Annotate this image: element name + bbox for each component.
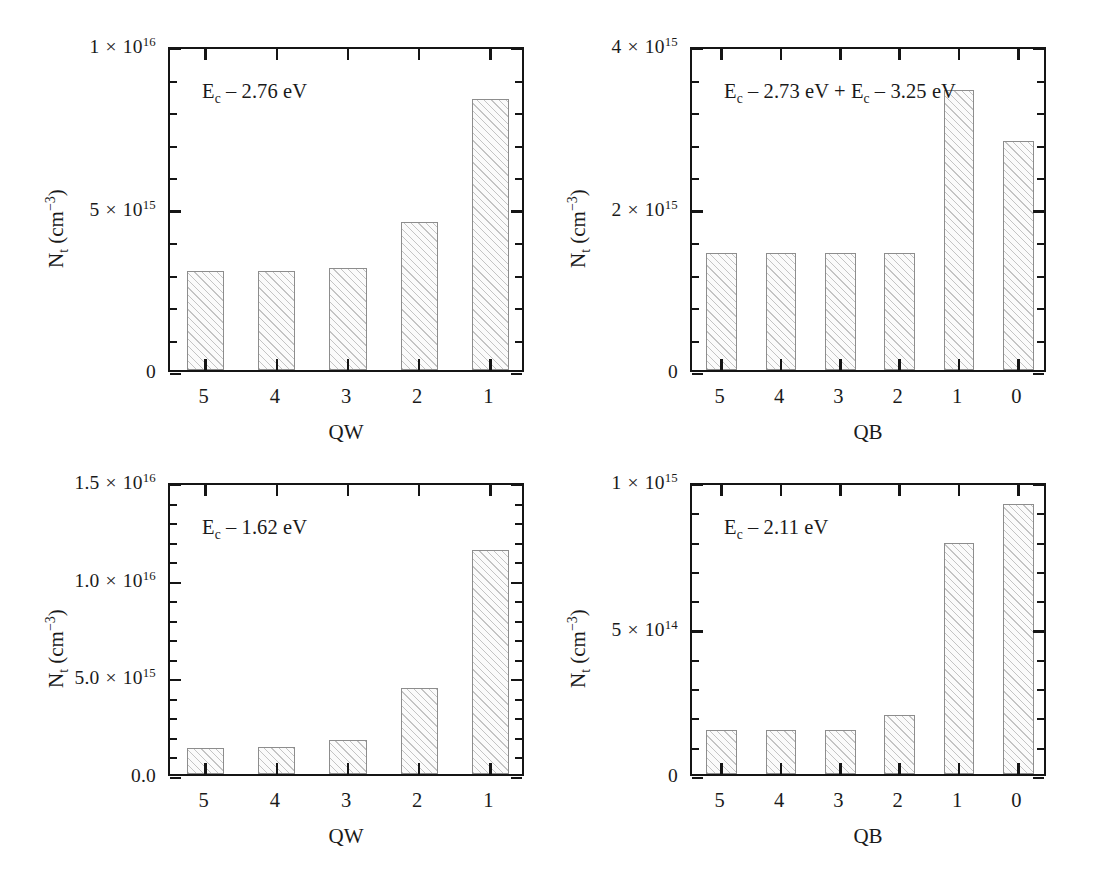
y-tick-major	[170, 679, 181, 681]
plot-annotation: Ec – 2.76 eV	[202, 80, 307, 103]
y-tick-minor-right	[1037, 572, 1044, 574]
x-tick-label: 5	[690, 790, 750, 811]
x-tick-label: 0	[986, 790, 1046, 811]
y-tick-minor	[692, 243, 699, 245]
y-tick-minor	[692, 572, 699, 574]
y-tick-minor	[692, 113, 699, 115]
bar[interactable]	[472, 550, 509, 774]
x-tick-major-top	[204, 49, 206, 60]
bar[interactable]	[766, 730, 797, 774]
y-tick-major-right	[511, 484, 522, 486]
y-tick-minor-right	[515, 113, 522, 115]
bar[interactable]	[706, 253, 737, 370]
y-tick-minor	[692, 308, 699, 310]
bar[interactable]	[944, 90, 975, 370]
x-tick-major-top	[898, 49, 900, 60]
plot-area-bottom-right	[690, 483, 1046, 776]
y-tick-label: 5 × 1014	[612, 620, 678, 640]
y-axis-title: Nt (cm−3)	[44, 189, 69, 268]
x-tick-major-top	[839, 485, 841, 496]
bar[interactable]	[706, 730, 737, 774]
y-tick-minor	[170, 699, 177, 701]
y-tick-major	[170, 777, 181, 779]
bar[interactable]	[187, 748, 224, 774]
y-tick-minor-right	[515, 562, 522, 564]
y-tick-minor	[170, 341, 177, 343]
bars-layer-top-right	[692, 49, 1044, 370]
y-tick-major	[692, 373, 703, 375]
y-tick-minor	[692, 660, 699, 662]
x-tick-major-top	[276, 485, 278, 496]
bar[interactable]	[944, 543, 975, 774]
y-tick-minor	[170, 308, 177, 310]
bar[interactable]	[472, 99, 509, 370]
y-tick-minor-right	[1037, 243, 1044, 245]
y-tick-minor-right	[515, 738, 522, 740]
x-tick-major-top	[347, 485, 349, 496]
bar[interactable]	[825, 730, 856, 774]
y-tick-minor	[692, 689, 699, 691]
y-tick-major-right	[1033, 777, 1044, 779]
y-axis-title: Nt (cm−3)	[566, 189, 591, 268]
y-tick-major	[692, 48, 703, 50]
y-tick-minor	[170, 276, 177, 278]
y-tick-minor-right	[515, 504, 522, 506]
y-tick-minor-right	[515, 341, 522, 343]
y-tick-minor	[170, 562, 177, 564]
y-tick-minor	[692, 543, 699, 545]
x-tick-major-top	[1017, 49, 1019, 60]
y-tick-minor	[170, 738, 177, 740]
x-axis-title: QB	[690, 824, 1046, 849]
y-tick-label: 1 × 1015	[612, 473, 678, 493]
bar[interactable]	[884, 715, 915, 774]
y-tick-minor	[170, 146, 177, 148]
y-tick-minor	[170, 601, 177, 603]
x-tick-major-top	[780, 485, 782, 496]
y-tick-label: 2 × 1015	[612, 200, 678, 220]
y-tick-major	[170, 484, 181, 486]
plot-annotation: Ec – 1.62 eV	[202, 516, 307, 539]
y-tick-minor	[170, 543, 177, 545]
bar[interactable]	[401, 688, 438, 774]
bar[interactable]	[258, 271, 295, 370]
y-tick-label: 1.0 × 1016	[74, 571, 156, 591]
bar[interactable]	[258, 747, 295, 774]
x-tick-label: 1	[458, 386, 518, 407]
x-tick-label: 5	[174, 386, 234, 407]
y-axis-title: Nt (cm−3)	[566, 609, 591, 688]
x-tick-label: 4	[245, 790, 305, 811]
y-tick-label: 0	[146, 362, 156, 382]
y-tick-minor	[170, 660, 177, 662]
y-tick-label: 0	[668, 766, 678, 786]
bar[interactable]	[329, 740, 366, 774]
bar[interactable]	[329, 268, 366, 370]
y-tick-minor	[170, 504, 177, 506]
bar[interactable]	[187, 271, 224, 370]
x-tick-label: 5	[690, 386, 750, 407]
y-tick-minor-right	[1037, 748, 1044, 750]
y-tick-minor	[170, 523, 177, 525]
y-tick-minor-right	[515, 660, 522, 662]
bar[interactable]	[1003, 504, 1034, 774]
y-tick-major-right	[511, 373, 522, 375]
x-tick-label: 3	[316, 790, 376, 811]
bar[interactable]	[766, 253, 797, 370]
bar[interactable]	[884, 253, 915, 370]
x-tick-major-top	[898, 485, 900, 496]
y-tick-minor-right	[1037, 178, 1044, 180]
bar[interactable]	[825, 253, 856, 370]
y-tick-minor-right	[515, 178, 522, 180]
y-tick-major	[170, 48, 181, 50]
x-tick-label: 1	[458, 790, 518, 811]
x-tick-major-top	[1017, 485, 1019, 496]
bar[interactable]	[401, 222, 438, 370]
y-tick-major-right	[1033, 484, 1044, 486]
x-tick-label: 2	[387, 790, 447, 811]
y-tick-major-right	[511, 210, 522, 212]
y-tick-minor-right	[1037, 513, 1044, 515]
y-tick-minor	[170, 113, 177, 115]
y-tick-label: 4 × 1015	[612, 37, 678, 57]
y-tick-label: 1.5 × 1016	[74, 473, 156, 493]
y-tick-minor-right	[515, 276, 522, 278]
bar[interactable]	[1003, 141, 1034, 370]
